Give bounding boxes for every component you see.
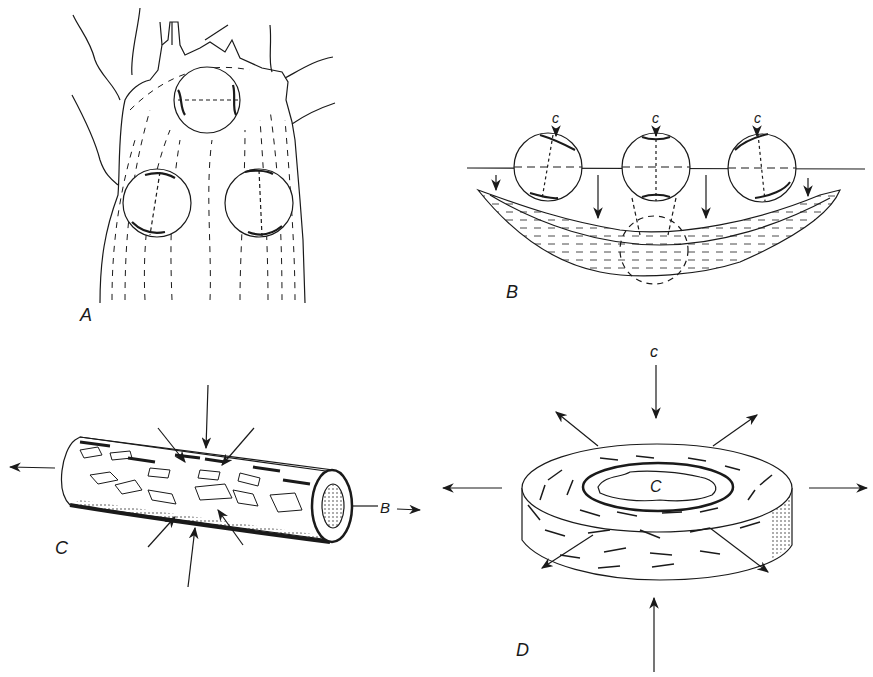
b-circle-3-c-label: c [754,110,761,126]
panel-c [10,385,420,587]
b-circle-1-c-label: c [552,110,559,126]
d-center-c-label: C [650,478,662,496]
panel-b [467,128,865,284]
panel-a [72,8,335,303]
panel-c-label: C [55,538,68,559]
figure-canvas [0,0,873,677]
panel-a-label: A [80,305,92,326]
panel-d-label: D [516,640,529,661]
panel-d [443,365,867,672]
panel-b-label: B [506,282,518,303]
c-axis-b-label: B [380,499,390,516]
d-axis-c-label: c [650,343,658,361]
b-circle-2-c-label: c [652,110,659,126]
